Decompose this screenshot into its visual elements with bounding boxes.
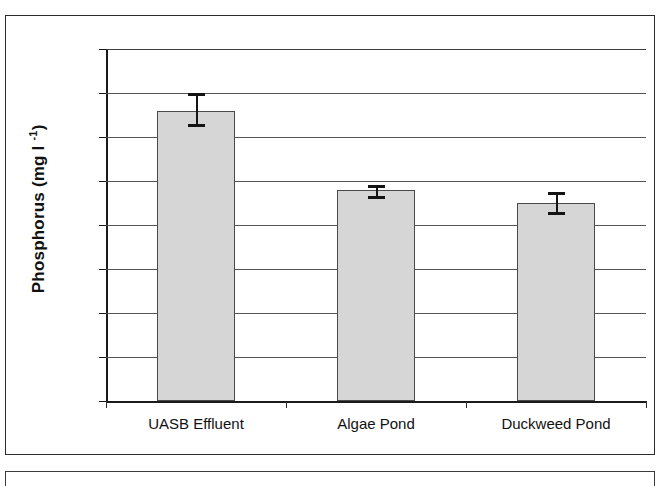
lower-page-frame xyxy=(5,471,655,486)
error-bar-cap-lower xyxy=(188,124,205,127)
error-bar-stem xyxy=(196,93,198,124)
bar xyxy=(517,203,595,401)
y-axis-tick xyxy=(99,93,106,94)
y-axis-tick xyxy=(99,49,106,50)
y-axis-tick xyxy=(99,357,106,358)
bar xyxy=(337,190,415,401)
y-axis-title-tail: ) xyxy=(29,124,48,130)
plot-area: 8.07.06.05.04.03.02.01.00.0 UASB Effluen… xyxy=(106,49,646,401)
y-axis-title-superscript: -1 xyxy=(27,130,39,140)
x-axis-tick xyxy=(466,401,467,408)
y-axis-tick xyxy=(99,269,106,270)
gridline xyxy=(106,401,646,403)
bar xyxy=(157,111,235,401)
y-axis-tick xyxy=(99,181,106,182)
x-axis-tick-label: Duckweed Pond xyxy=(466,415,646,432)
figure-frame: Phosphorus (mg l -1) 8.07.06.05.04.03.02… xyxy=(5,15,655,455)
error-bar-cap-upper xyxy=(188,93,205,96)
x-axis-tick xyxy=(646,401,647,408)
y-axis-tick xyxy=(99,401,106,402)
y-axis-title-base: Phosphorus (mg l xyxy=(29,141,48,294)
y-axis-tick xyxy=(99,313,106,314)
bar-chart: Phosphorus (mg l -1) 8.07.06.05.04.03.02… xyxy=(6,16,656,456)
error-bar-cap-upper xyxy=(368,185,385,188)
x-axis-tick-label: UASB Effluent xyxy=(106,415,286,432)
error-bar-cap-lower xyxy=(368,196,385,199)
x-axis-tick xyxy=(286,401,287,408)
y-axis-tick xyxy=(99,137,106,138)
y-axis-tick xyxy=(99,225,106,226)
y-axis-title: Phosphorus (mg l -1) xyxy=(27,59,49,359)
x-axis-tick-label: Algae Pond xyxy=(286,415,466,432)
error-bar-cap-lower xyxy=(548,212,565,215)
gridline xyxy=(106,49,646,50)
x-axis-tick xyxy=(106,401,107,408)
error-bar-cap-upper xyxy=(548,192,565,195)
